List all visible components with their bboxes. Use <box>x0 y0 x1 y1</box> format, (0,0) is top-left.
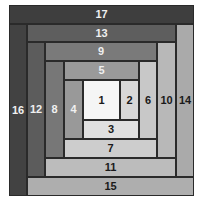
block-label: 3 <box>108 124 114 135</box>
block-6: 6 <box>139 61 157 139</box>
block-label: 8 <box>51 104 57 115</box>
block-label: 9 <box>98 46 104 57</box>
block-12: 12 <box>27 42 45 177</box>
block-5: 5 <box>64 61 139 80</box>
block-4: 4 <box>64 80 83 139</box>
block-3: 3 <box>83 120 139 139</box>
block-label: 14 <box>179 95 191 106</box>
block-8: 8 <box>45 61 64 158</box>
block-7: 7 <box>64 139 157 158</box>
block-15: 15 <box>27 177 194 196</box>
block-label: 4 <box>70 104 76 115</box>
block-1: 1 <box>83 80 120 120</box>
block-17: 17 <box>9 5 194 24</box>
block-label: 16 <box>12 105 24 116</box>
log-cabin-diagram: 1234567891011121314151617 <box>0 0 202 202</box>
block-label: 2 <box>126 95 132 106</box>
block-11: 11 <box>45 158 176 177</box>
block-label: 5 <box>98 65 104 76</box>
block-14: 14 <box>176 24 194 177</box>
block-10: 10 <box>157 42 176 158</box>
block-13: 13 <box>27 24 176 42</box>
block-label: 7 <box>107 143 113 154</box>
block-label: 15 <box>104 181 116 192</box>
block-2: 2 <box>120 80 139 120</box>
block-9: 9 <box>45 42 157 61</box>
block-label: 13 <box>95 28 107 39</box>
block-label: 17 <box>95 9 107 20</box>
block-label: 1 <box>98 95 104 106</box>
block-label: 6 <box>145 95 151 106</box>
block-label: 11 <box>105 162 117 173</box>
block-16: 16 <box>9 24 27 196</box>
block-label: 10 <box>160 95 172 106</box>
block-label: 12 <box>30 104 42 115</box>
